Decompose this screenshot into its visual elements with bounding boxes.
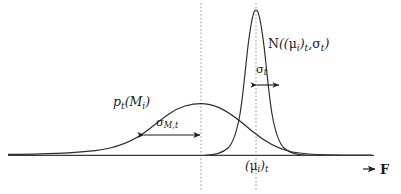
- prior-label: pt(Mi): [113, 96, 150, 111]
- likelihood-distribution-curve: [205, 10, 372, 155]
- mu-tick-label: (μi)t: [245, 160, 268, 174]
- likelihood-label: N((μi)t,σt): [268, 38, 329, 53]
- sigma-t-label: σt: [256, 64, 267, 77]
- sigma-mt-label: σM,t: [156, 117, 178, 130]
- probability-distribution-figure: [0, 0, 401, 194]
- prior-distribution-curve: [8, 104, 372, 156]
- axis-label-f: F: [380, 163, 389, 176]
